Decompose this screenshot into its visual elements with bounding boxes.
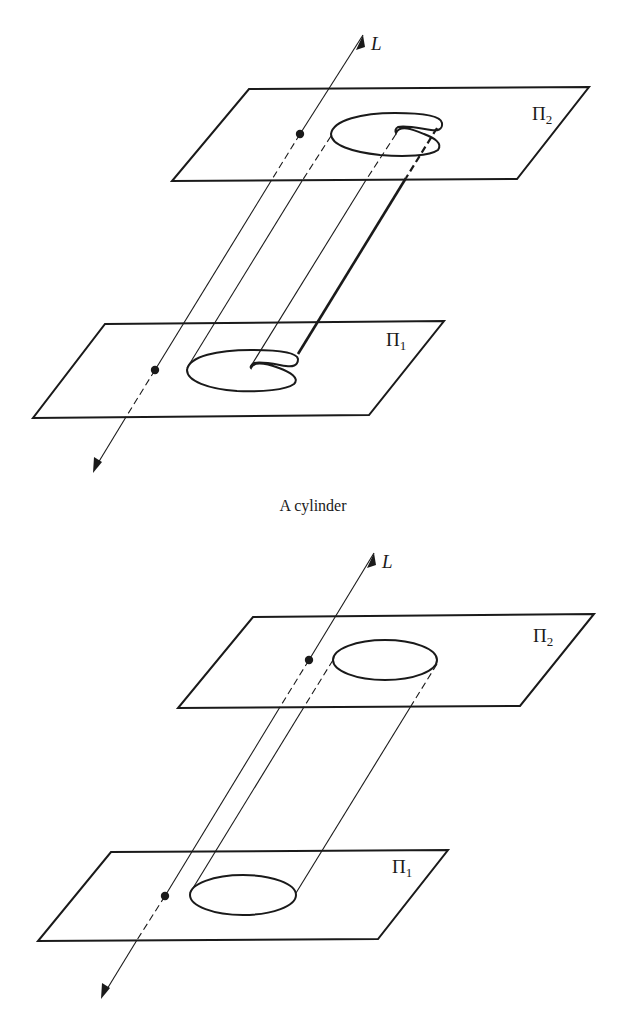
point-on-pi1-top: [151, 366, 159, 374]
plane-label-pi2-bottom: Π2: [533, 625, 553, 650]
directrix-upper-bottom: [333, 640, 437, 680]
plane-subscript: 2: [547, 634, 554, 649]
line-L-bottom: [101, 553, 376, 999]
point-on-pi1-bottom: [161, 892, 169, 900]
generator-edge-top: [298, 178, 406, 354]
plane-subscript: 2: [546, 112, 553, 127]
generator-left-hidden-top: [302, 136, 331, 181]
arrowhead-up-icon: [367, 553, 376, 568]
figure-top-cylinder: [33, 35, 589, 473]
point-on-pi2-top: [296, 130, 304, 138]
generator-left-bottom: [190, 707, 304, 893]
figure-caption: A cylinder: [0, 497, 626, 515]
plane-label-pi2-top: Π2: [532, 103, 552, 128]
generator-notch-hidden-top: [366, 134, 396, 180]
plane-pi1-top: [33, 321, 444, 418]
plane-pi2-bottom: [178, 614, 594, 708]
axis-label-L-top: L: [371, 33, 382, 55]
plane-pi1-bottom: [38, 850, 448, 941]
plane-subscript: 1: [400, 338, 407, 353]
plane-subscript: 1: [406, 865, 413, 880]
generator-left-hidden-bottom: [304, 660, 333, 707]
generator-left-top: [187, 181, 302, 368]
axis-label-L-bottom: L: [382, 551, 393, 573]
directrix-lower-bottom: [190, 875, 296, 915]
diagram-canvas: [0, 0, 626, 1033]
plane-symbol: Π: [533, 625, 547, 646]
plane-label-pi1-bottom: Π1: [392, 856, 412, 881]
plane-symbol: Π: [392, 856, 406, 877]
plane-label-pi1-top: Π1: [386, 329, 406, 354]
directrix-upper-top: [331, 113, 442, 156]
directrix-lower-top: [187, 350, 298, 391]
line-L-top: [93, 35, 365, 473]
plane-symbol: Π: [386, 329, 400, 350]
generator-right-hidden-bottom: [411, 664, 437, 706]
arrowhead-up-icon: [356, 35, 365, 50]
plane-pi2-top: [172, 87, 589, 181]
point-on-pi2-bottom: [305, 656, 313, 664]
plane-symbol: Π: [532, 103, 546, 124]
figure-bottom-cylinder: [38, 553, 594, 999]
